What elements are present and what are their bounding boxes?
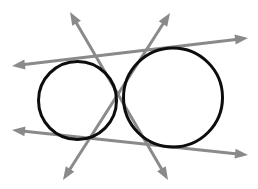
geometry-figure: A small circle on the left and a larger …	[0, 0, 258, 189]
figure-canvas	[0, 0, 258, 189]
